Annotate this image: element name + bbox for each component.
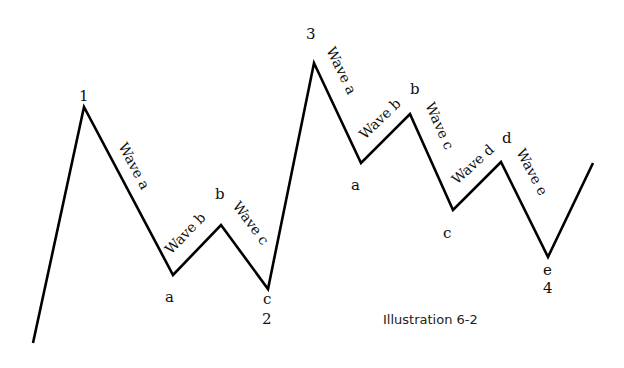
label-point-3: 3	[306, 25, 316, 43]
label-point-2: 2	[262, 310, 272, 328]
label-point-d: d	[502, 129, 512, 147]
label-wave-a-second: Wave a	[323, 44, 360, 96]
wave-path-line	[33, 63, 593, 343]
label-point-e: e	[543, 261, 552, 279]
label-point-c-first: c	[263, 290, 271, 308]
label-wave-a-first: Wave a	[115, 140, 153, 192]
label-wave-b-second: Wave b	[356, 95, 404, 142]
label-point-a-second: a	[351, 176, 360, 194]
label-wave-b-first: Wave b	[162, 209, 209, 257]
label-point-a-first: a	[165, 288, 174, 306]
label-point-c-second: c	[443, 224, 451, 242]
elliott-wave-diagram: 1 a b c 2 3 a b c d e 4 Wave a Wave b Wa…	[0, 0, 624, 368]
label-point-1: 1	[79, 87, 89, 105]
label-wave-d: Wave d	[448, 141, 497, 187]
label-wave-c-first: Wave c	[230, 198, 273, 248]
label-point-4: 4	[543, 279, 553, 297]
illustration-caption: Illustration 6-2	[383, 312, 478, 327]
label-point-b-first: b	[215, 185, 225, 203]
label-point-b-second: b	[410, 80, 420, 98]
wave-chart-svg: 1 a b c 2 3 a b c d e 4 Wave a Wave b Wa…	[0, 0, 624, 368]
label-wave-c-second: Wave c	[422, 100, 457, 152]
label-wave-e: Wave e	[513, 146, 551, 198]
